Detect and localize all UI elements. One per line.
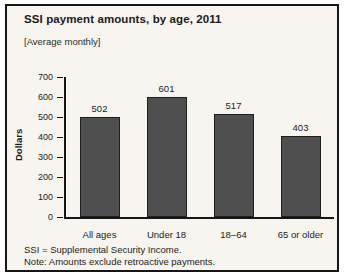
bar-value-label: 517 xyxy=(212,100,256,111)
y-tick-label: 100 xyxy=(18,192,53,202)
y-tick-mark xyxy=(57,157,63,158)
y-tick-label: 600 xyxy=(18,92,53,102)
bar-value-label: 502 xyxy=(78,103,122,114)
bar-all-ages xyxy=(80,117,120,217)
bar-value-label: 601 xyxy=(145,83,189,94)
y-tick-mark xyxy=(57,137,63,138)
y-axis-label: Dollars xyxy=(13,116,24,174)
x-category-label: Under 18 xyxy=(132,229,202,240)
y-tick-mark xyxy=(57,217,63,218)
y-tick-label: 400 xyxy=(18,132,53,142)
y-tick-mark xyxy=(57,97,63,98)
y-tick-label: 500 xyxy=(18,112,53,122)
x-category-label: 65 or older xyxy=(266,229,336,240)
chart-title: SSI payment amounts, by age, 2011 xyxy=(24,13,222,25)
bar-65-or-older xyxy=(281,136,321,217)
chart-subtitle: [Average monthly] xyxy=(24,36,100,47)
x-category-label: All ages xyxy=(65,229,135,240)
plot-area: 0100200300400500600700502All ages601Unde… xyxy=(64,77,334,219)
footnote-abbreviation: SSI = Supplemental Security Income. xyxy=(24,244,182,255)
y-tick-mark xyxy=(57,197,63,198)
figure: SSI payment amounts, by age, 2011 [Avera… xyxy=(0,0,344,276)
bar-value-label: 403 xyxy=(279,122,323,133)
y-tick-label: 0 xyxy=(18,212,53,222)
x-category-label: 18–64 xyxy=(199,229,269,240)
y-tick-mark xyxy=(57,77,63,78)
bar-under-18 xyxy=(147,97,187,217)
y-tick-mark xyxy=(57,177,63,178)
y-tick-label: 300 xyxy=(18,152,53,162)
y-tick-label: 700 xyxy=(18,72,53,82)
y-tick-mark xyxy=(57,117,63,118)
footnote-note: Note: Amounts exclude retroactive paymen… xyxy=(24,256,215,267)
figure-panel: SSI payment amounts, by age, 2011 [Avera… xyxy=(5,4,339,272)
y-tick-label: 200 xyxy=(18,172,53,182)
bar-18-64 xyxy=(214,114,254,217)
